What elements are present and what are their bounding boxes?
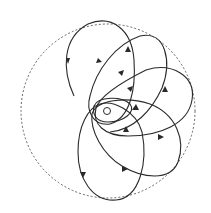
rosette-orbit-diagram <box>0 0 211 213</box>
arrow-icon <box>80 172 86 178</box>
arrow-icon <box>132 104 139 110</box>
focus-point <box>104 108 111 115</box>
arrow-icon <box>96 58 102 63</box>
direction-arrows <box>66 46 168 178</box>
arrow-icon <box>118 70 124 76</box>
arrow-icon <box>125 46 131 52</box>
arrow-icon <box>158 134 164 140</box>
arrow-icon <box>122 166 128 172</box>
arrow-icon <box>127 86 133 92</box>
